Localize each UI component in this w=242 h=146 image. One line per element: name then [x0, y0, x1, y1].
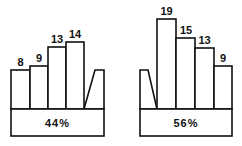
- left-trapezoid: [84, 70, 104, 109]
- left-bar-1-label: 8: [17, 56, 23, 68]
- left-bar-3: [48, 47, 66, 109]
- right-bar-4-label: 9: [220, 52, 226, 64]
- right-percentage: 56%: [173, 117, 198, 129]
- right-bar-3-label: 13: [198, 34, 210, 46]
- right-bar-3: [195, 48, 214, 109]
- right-bar-1: [157, 19, 176, 109]
- left-bar-3-label: 13: [51, 33, 63, 45]
- right-panel: 19 15 13 9 56%: [140, 5, 232, 136]
- right-trapezoid: [140, 70, 157, 109]
- left-bar-1: [11, 70, 30, 109]
- left-bar-2: [30, 66, 48, 109]
- left-bar-4-label: 14: [69, 28, 82, 40]
- left-percentage: 44%: [45, 117, 70, 129]
- bar-diagram: 8 9 13 14 44% 19 15 13 9 56%: [0, 0, 242, 146]
- right-bar-1-label: 19: [160, 5, 172, 17]
- right-bar-2-label: 15: [180, 24, 192, 36]
- left-panel: 8 9 13 14 44%: [11, 28, 104, 136]
- left-bar-4: [66, 42, 84, 109]
- right-bar-4: [214, 66, 232, 109]
- left-bar-2-label: 9: [36, 52, 42, 64]
- right-bar-2: [176, 38, 195, 109]
